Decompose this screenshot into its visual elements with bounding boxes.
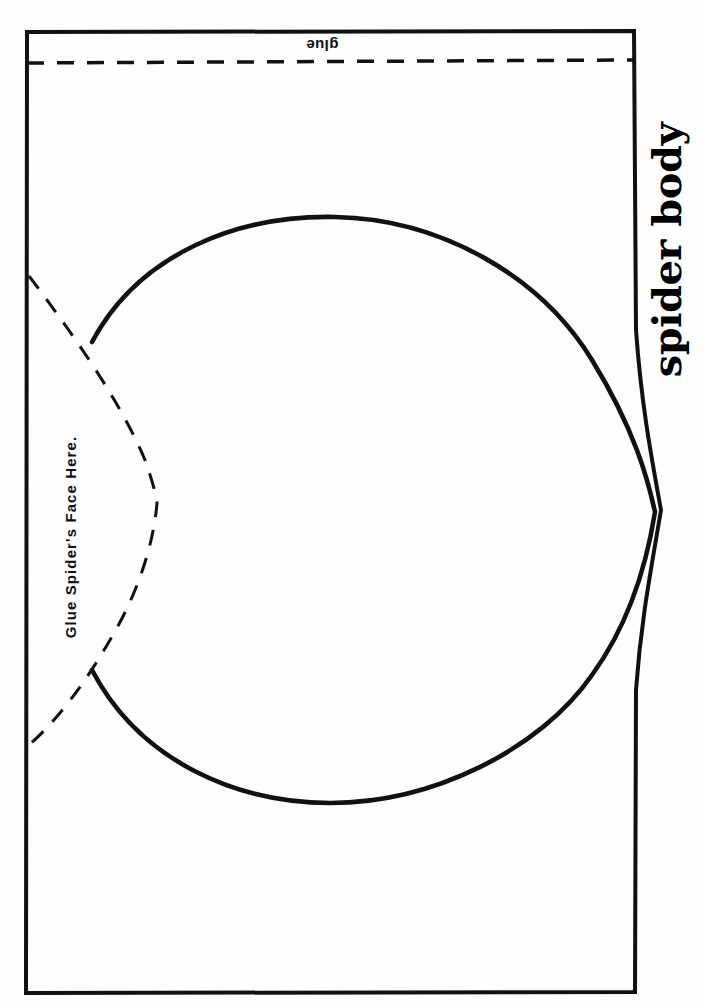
craft-template-artwork <box>0 0 705 1008</box>
spider-body-cut-outline <box>92 217 655 803</box>
glue-fold-dashed-line <box>27 60 634 63</box>
template-page-border <box>26 31 661 993</box>
face-placement-label: Glue Spider's Face Here. <box>63 436 78 639</box>
spider-body-title: spider body <box>647 123 687 377</box>
glue-tab-label: glue <box>306 38 338 53</box>
template-sheet: glue Glue Spider's Face Here. spider bod… <box>0 0 705 1008</box>
